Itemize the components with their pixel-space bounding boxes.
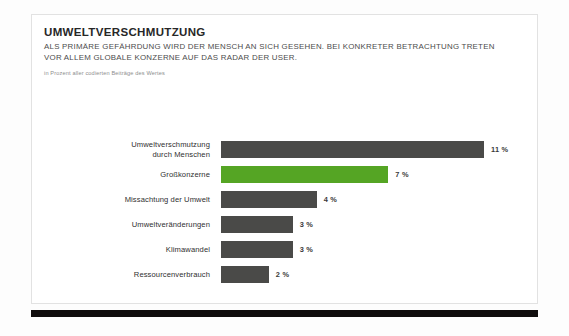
bar-track: 4 % — [221, 191, 537, 208]
bar — [221, 216, 293, 233]
bar-category-label: Missachtung der Umwelt — [32, 195, 221, 204]
bar-category-label: Klimawandel — [32, 245, 221, 254]
page-title: UMWELTVERSCHMUTZUNG — [44, 26, 525, 39]
bar-highlighted — [221, 166, 388, 183]
chart-header: UMWELTVERSCHMUTZUNG ALS PRIMÄRE GEFÄHRDU… — [44, 26, 525, 77]
bar-track: 11 % — [221, 141, 537, 158]
bar — [221, 141, 484, 158]
bar-row: Großkonzerne7 % — [32, 166, 537, 183]
bar — [221, 266, 269, 283]
bar-chart-plot-area: Umweltverschmutzung durch Menschen11 %Gr… — [32, 141, 537, 283]
bar-category-label: Umweltverschmutzung durch Menschen — [32, 140, 221, 158]
bar-value-label: 4 % — [324, 195, 337, 204]
bar-value-label: 11 % — [491, 145, 508, 154]
bar-value-label: 3 % — [300, 220, 313, 229]
bar-row: Umweltveränderungen3 % — [32, 216, 537, 233]
bar-category-label: Umweltveränderungen — [32, 220, 221, 229]
bar-row: Missachtung der Umwelt4 % — [32, 191, 537, 208]
bar — [221, 191, 317, 208]
bar-category-label: Großkonzerne — [32, 170, 221, 179]
bar-value-label: 2 % — [276, 270, 289, 279]
slide-page: UMWELTVERSCHMUTZUNG ALS PRIMÄRE GEFÄHRDU… — [0, 0, 569, 336]
chart-caption: in Prozent aller codierten Beiträge des … — [44, 69, 525, 77]
bar-track: 3 % — [221, 216, 537, 233]
chart-subtitle: ALS PRIMÄRE GEFÄHRDUNG WIRD DER MENSCH A… — [44, 42, 514, 63]
bar-row: Umweltverschmutzung durch Menschen11 % — [32, 141, 537, 158]
bar-track: 7 % — [221, 166, 537, 183]
bar-category-label: Ressourcenverbrauch — [32, 270, 221, 279]
bar-row: Ressourcenverbrauch2 % — [32, 266, 537, 283]
bar-value-label: 3 % — [300, 245, 313, 254]
bottom-rule — [31, 310, 538, 317]
bar — [221, 241, 293, 258]
chart-card: UMWELTVERSCHMUTZUNG ALS PRIMÄRE GEFÄHRDU… — [31, 14, 538, 304]
bar-row: Klimawandel3 % — [32, 241, 537, 258]
bar-track: 2 % — [221, 266, 537, 283]
bar-value-label: 7 % — [395, 170, 408, 179]
bar-track: 3 % — [221, 241, 537, 258]
